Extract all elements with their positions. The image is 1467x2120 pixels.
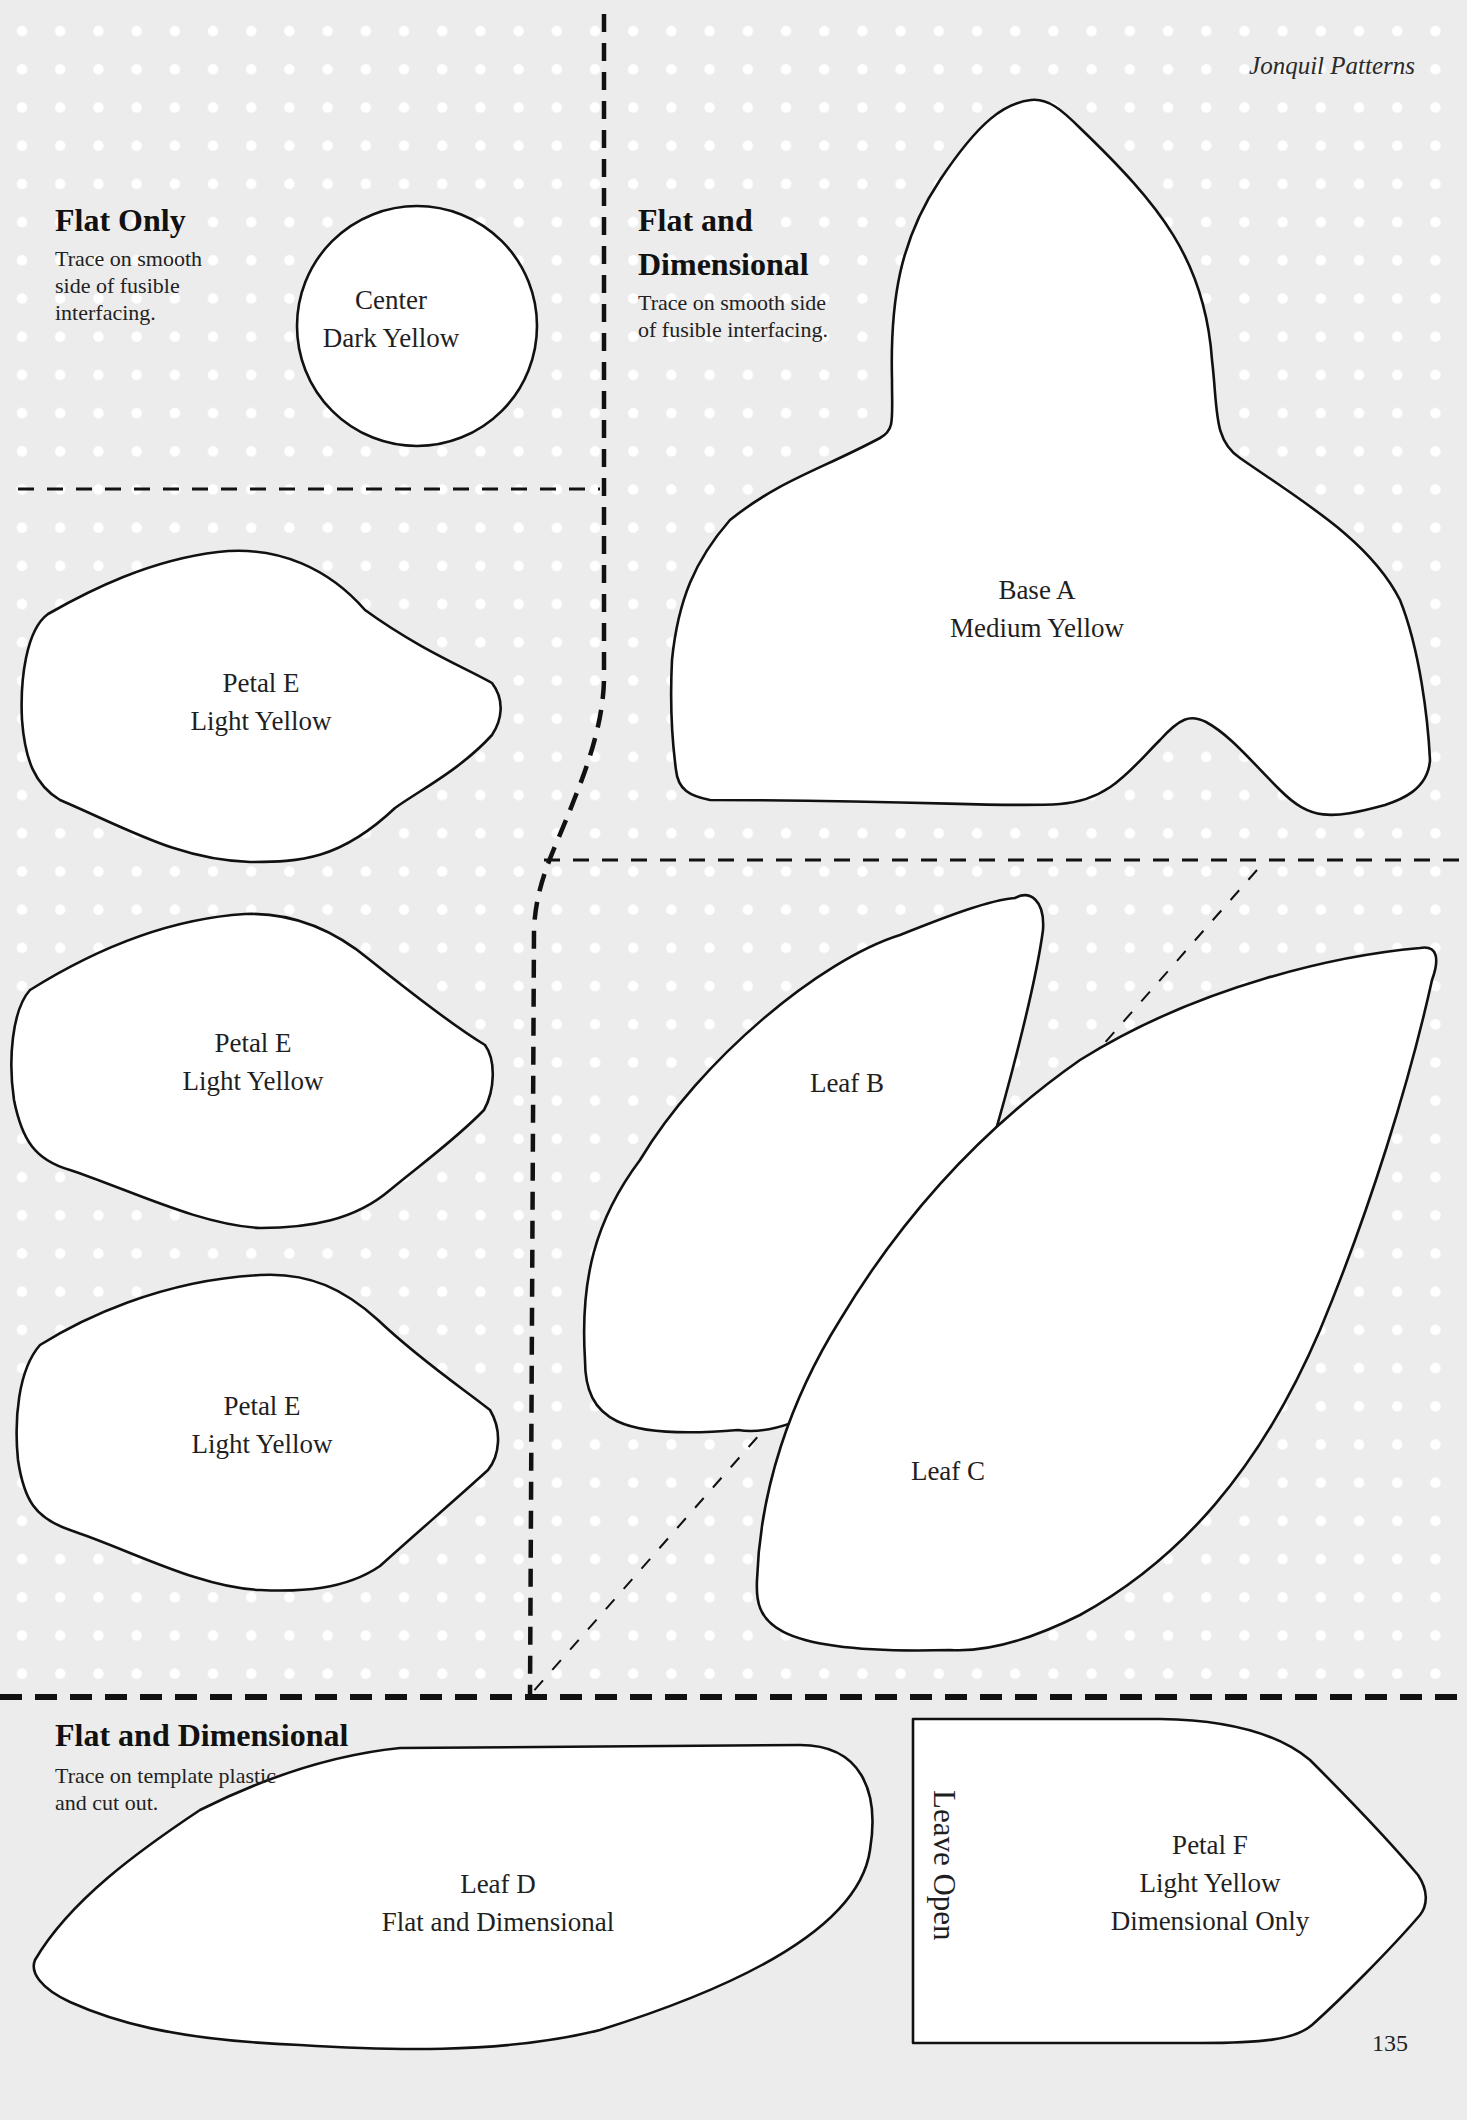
piece-name: Base A (950, 571, 1124, 609)
piece-name: Center (323, 281, 460, 319)
piece-note: Dimensional Only (1111, 1902, 1310, 1940)
instruction-line: interfacing. (55, 299, 202, 326)
instruction-line: Trace on template plastic (55, 1762, 276, 1789)
piece-color: Light Yellow (190, 702, 331, 740)
petal-e-2-label: Petal E Light Yellow (182, 1024, 323, 1100)
piece-color: Medium Yellow (950, 609, 1124, 647)
piece-name: Petal E (191, 1387, 332, 1425)
piece-name: Petal E (190, 664, 331, 702)
piece-name: Petal E (182, 1024, 323, 1062)
flat-and-dimensional-title: Flat and Dimensional (638, 198, 809, 286)
piece-name: Leaf B (810, 1064, 884, 1102)
running-head: Jonquil Patterns (1249, 52, 1415, 80)
flat-and-dimensional-instructions: Trace on smooth side of fusible interfac… (638, 289, 828, 343)
piece-color: Light Yellow (182, 1062, 323, 1100)
leaf-d-label: Leaf D Flat and Dimensional (382, 1865, 614, 1941)
bottom-section-instructions: Trace on template plastic and cut out. (55, 1762, 276, 1816)
flat-only-instructions: Trace on smooth side of fusible interfac… (55, 245, 202, 326)
title-line: Flat and (638, 198, 809, 242)
flat-only-title: Flat Only (55, 198, 186, 242)
petal-e-3-label: Petal E Light Yellow (191, 1387, 332, 1463)
piece-name: Leaf D (382, 1865, 614, 1903)
instruction-line: side of fusible (55, 272, 202, 299)
piece-color: Dark Yellow (323, 319, 460, 357)
base-a-label: Base A Medium Yellow (950, 571, 1124, 647)
petal-f-label: Petal F Light Yellow Dimensional Only (1111, 1826, 1310, 1940)
piece-color: Light Yellow (1111, 1864, 1310, 1902)
leaf-b-label: Leaf B (810, 1064, 884, 1102)
bottom-section-title: Flat and Dimensional (55, 1713, 348, 1757)
piece-note: Flat and Dimensional (382, 1903, 614, 1941)
petal-e-1-label: Petal E Light Yellow (190, 664, 331, 740)
title-line: Dimensional (638, 242, 809, 286)
page-number: 135 (1372, 2030, 1408, 2057)
leave-open-label: Leave Open (926, 1790, 962, 1941)
piece-name: Leaf C (911, 1452, 985, 1490)
instruction-line: of fusible interfacing. (638, 316, 828, 343)
instruction-line: and cut out. (55, 1789, 276, 1816)
instruction-line: Trace on smooth side (638, 289, 828, 316)
pattern-page: Jonquil Patterns Flat Only Trace on smoo… (0, 0, 1467, 2120)
center-piece-label: Center Dark Yellow (323, 281, 460, 357)
piece-name: Petal F (1111, 1826, 1310, 1864)
piece-color: Light Yellow (191, 1425, 332, 1463)
instruction-line: Trace on smooth (55, 245, 202, 272)
leaf-c-label: Leaf C (911, 1452, 985, 1490)
